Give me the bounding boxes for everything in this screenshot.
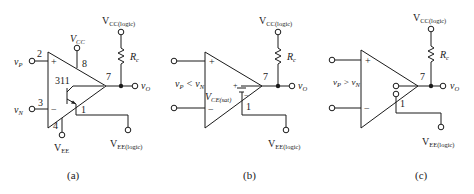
vp-terminal-a [29,58,35,64]
minus-sign-b: − [208,104,214,115]
pin-1-label-b: 1 [246,101,251,112]
comparator-figure: vP 2 + vN 3 − 311 VCC 8 4 VEE 1 VEE(logi… [0,0,474,194]
resistor-rc-b [275,35,281,86]
rc-label-a: Rc [129,51,139,63]
vee-logic-label-a: VEE(logic) [110,138,143,151]
vn-label-a: vN [14,104,23,116]
condition-label-b: vP < vN [175,78,205,90]
vcc-logic-label-b: VCC(logic) [259,15,292,28]
vee-logic-label-b: VEE(logic) [268,138,301,151]
sat-plus-sign: + [233,81,238,90]
rc-label-c: Rc [439,49,449,61]
vcc-logic-terminal-b [275,29,281,35]
caption-a: (a) [67,169,80,182]
sat-minus-sign: − [244,91,249,100]
condition-label-c: vP > vN [333,77,361,88]
vcc-terminal-a [74,45,80,51]
rc-label-b: Rc [286,51,296,63]
vcc-logic-terminal-c [428,26,434,32]
vee-logic-terminal-a [125,127,131,133]
vo-label-c: vO [450,80,459,92]
pin-8-label: 8 [82,58,87,69]
pin-1-label-c: 1 [400,98,405,109]
vp-terminal-c [329,57,335,63]
plus-sign-c: + [365,55,371,66]
chip-label-311: 311 [55,75,70,86]
vee-logic-label-c: VEE(logic) [422,136,455,149]
vee-terminal-a [59,132,65,138]
pin-3-label: 3 [38,97,43,108]
resistor-rc-c [428,32,434,86]
vn-terminal-a [29,106,35,112]
vp-label-a: vP [14,56,22,68]
vo-terminal-a [132,83,138,89]
vo-label-a: vO [141,80,150,92]
plus-sign-b: + [209,56,215,67]
vce-sat-label: VCE(sat) [205,91,231,104]
open-terminal-collector [393,83,399,89]
vp-terminal-b [171,58,177,64]
vcc-logic-label-c: VCC(logic) [413,12,446,25]
resistor-rc-a [118,35,124,86]
pin-7-label-c: 7 [420,71,425,82]
vo-label-b: vO [298,80,307,92]
pin-1-label-a: 1 [81,104,86,115]
vcc-label-a: VCC [70,33,85,45]
vee-logic-terminal-c [438,124,444,130]
vn-terminal-b [171,105,177,111]
panel-b: + − vP < vN + − VCE(sat) 1 VEE(logic) vO… [171,15,307,182]
minus-sign-a: − [51,104,57,115]
vee-logic-terminal-b [283,127,289,133]
vo-terminal-c [440,83,446,89]
vo-terminal-b [289,83,295,89]
pin-2-label: 2 [37,48,42,59]
pin-4-label: 4 [53,120,58,131]
open-terminal-emitter [393,91,399,97]
vcc-logic-label-a: VCC(logic) [102,15,135,28]
vee-label-a: VEE [54,142,69,154]
vn-terminal-c [329,105,335,111]
pin-7-label-a: 7 [106,71,111,82]
vcc-logic-terminal-a [118,29,124,35]
caption-b: (b) [243,169,256,182]
panel-c: + − vP > vN 1 VEE(logic) vO 7 VCC(logic)… [329,12,459,182]
caption-c: (c) [415,169,428,182]
pin-7-label-b: 7 [263,71,268,82]
plus-sign-a: + [51,56,57,67]
panel-a: vP 2 + vN 3 − 311 VCC 8 4 VEE 1 VEE(logi… [14,15,150,182]
minus-sign-c: − [364,103,370,114]
